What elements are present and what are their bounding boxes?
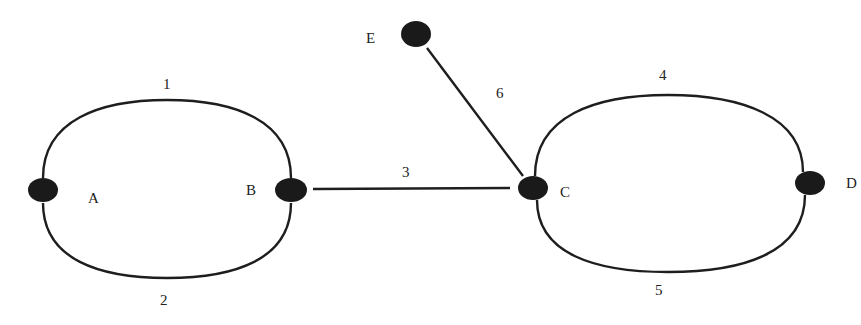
edge-3 [313,188,510,189]
node-d [795,171,825,195]
edge-label-5: 5 [655,282,663,298]
edge-label-6: 6 [496,85,504,101]
node-label-c: C [560,184,570,200]
edge-label-4: 4 [659,67,667,83]
node-e [401,21,431,47]
node-c [518,176,548,200]
node-a [28,178,58,202]
node-label-b: B [246,182,256,198]
graph-diagram: A B C D E 1 2 3 4 5 6 [0,0,861,325]
edge-label-1: 1 [163,76,171,92]
node-b [275,178,307,202]
edge-label-2: 2 [160,292,168,308]
edge-label-3: 3 [402,164,410,180]
node-label-e: E [366,30,375,46]
node-label-d: D [846,175,857,191]
node-label-a: A [88,190,99,206]
